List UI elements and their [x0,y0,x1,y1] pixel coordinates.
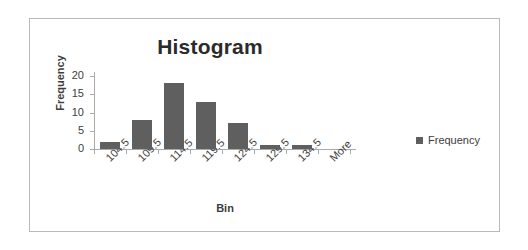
bar-119.5[interactable] [196,102,216,149]
x-axis-tick [222,150,223,154]
x-axis-tick [318,150,319,154]
x-axis-tick [350,150,351,154]
bar-134.5[interactable] [292,145,312,149]
x-axis-tick [254,150,255,154]
x-axis-tick [94,150,95,154]
y-axis-tick-label: 10 [62,107,84,118]
y-axis-tick-label: 5 [62,125,84,136]
bar-129.5[interactable] [260,145,280,149]
bar-124.5[interactable] [228,123,248,149]
chart-legend: Frequency [416,135,480,146]
y-axis-tick-label: 20 [62,70,84,81]
bar-109.5[interactable] [132,120,152,149]
y-axis-tick-label: 15 [62,88,84,99]
bar-114.5[interactable] [164,83,184,149]
x-axis-tick [126,150,127,154]
x-axis-tick [190,150,191,154]
legend-swatch-frequency [416,137,423,144]
y-axis-tick-label: 0 [62,143,84,154]
plot-area [94,76,350,149]
x-axis-title: Bin [160,202,290,214]
legend-label-frequency: Frequency [428,135,480,146]
chart-title: Histogram [30,35,390,59]
chart-frame: Histogram Frequency 05101520 104.5109.51… [29,18,500,232]
bar-104.5[interactable] [100,142,120,149]
x-axis-tick [158,150,159,154]
x-axis-tick [286,150,287,154]
